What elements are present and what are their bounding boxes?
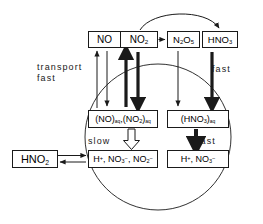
species-box-hno3[interactable]: HNO3: [202, 31, 238, 48]
species-box-n2o5[interactable]: N2O5: [167, 31, 200, 48]
label-slow: slow: [88, 136, 110, 147]
species-box-ions-right[interactable]: H+, NO3−: [167, 150, 229, 168]
label-transport-line1: transport: [37, 62, 82, 73]
label-transport-fast: transport fast: [37, 62, 82, 85]
species-box-no2[interactable]: NO2: [120, 31, 158, 48]
species-box-hno2[interactable]: HNO2: [12, 150, 58, 168]
species-box-hno3-aqueous[interactable]: (HNO3)aq: [167, 110, 229, 128]
label-fast-middle: fast: [197, 136, 216, 147]
label-transport-line2: fast: [37, 73, 82, 84]
species-box-no[interactable]: NO: [88, 31, 121, 48]
diagram-canvas: NO NO2 N2O5 HNO3 (NO)aq,(NO2)aq (HNO3)aq…: [0, 0, 263, 224]
species-box-ions-left[interactable]: H+, NO3−, NO2−: [88, 150, 158, 168]
slow-dissociation-arrow: [124, 129, 140, 150]
label-fast-right: fast: [212, 64, 231, 75]
no2-to-hno3-arc-arrow: [140, 14, 219, 30]
species-box-no-no2-aqueous[interactable]: (NO)aq,(NO2)aq: [88, 110, 158, 128]
